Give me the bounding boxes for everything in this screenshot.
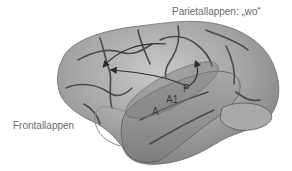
region-a-label: A [152,107,159,117]
frontal-lobe-label: Frontallappen [13,121,74,131]
region-a1-label: A1 [166,95,178,105]
parietal-lobe-label: Parietallappen: „wo“ [172,7,261,17]
region-p-label: P [183,84,190,94]
brain-diagram: Parietallappen: „wo“ Frontallappen A A1 … [0,0,292,171]
occipital-bump [220,103,272,130]
brain-illustration [0,0,292,171]
